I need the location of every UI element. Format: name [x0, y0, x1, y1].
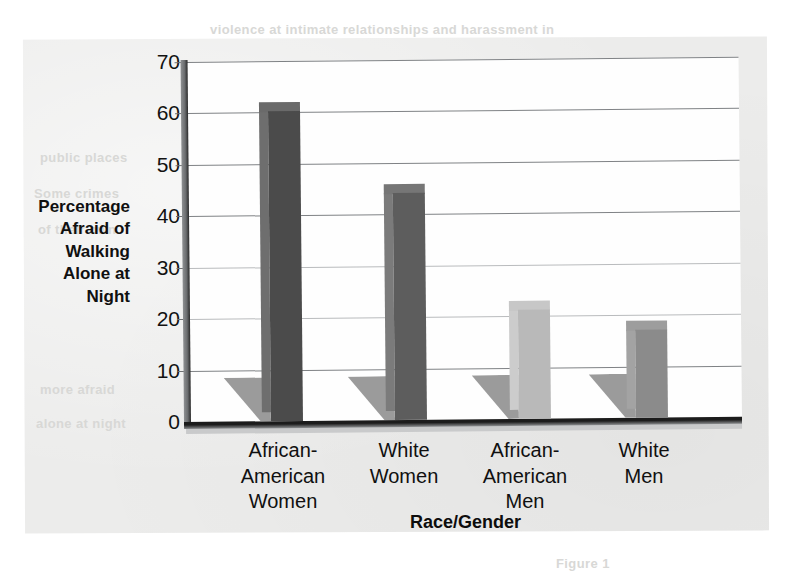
y-axis-tick-labels: 010203040506070	[128, 0, 180, 440]
bar	[509, 301, 551, 419]
y-axis-line	[181, 60, 191, 424]
y-axis-title: PercentageAfraid ofWalkingAlone atNight	[14, 196, 130, 308]
x-axis-category-line: Women	[193, 489, 373, 515]
bar-front-face	[635, 329, 668, 418]
gridlines	[187, 57, 739, 62]
y-axis-tick-label: 10	[157, 360, 180, 381]
gridline	[187, 57, 739, 63]
x-axis-category-line: Men	[435, 489, 615, 515]
scanned-chart-page: violence at intimate relationships and h…	[0, 0, 786, 581]
y-axis-tick-label: 0	[168, 411, 180, 432]
y-axis-title-line: Afraid of	[14, 218, 130, 240]
bar	[259, 102, 303, 421]
y-axis-title-line: Walking	[14, 241, 130, 263]
x-axis-category-line: White	[554, 438, 734, 464]
bar-front-face	[393, 192, 427, 420]
y-axis-title-line: Alone at	[14, 263, 130, 285]
bar	[626, 320, 668, 418]
bar-front-face	[268, 111, 303, 421]
bar-front-face	[518, 310, 551, 419]
x-axis-category-label: WhiteMen	[554, 438, 734, 489]
bar	[384, 183, 427, 420]
x-axis-title: Race/Gender	[410, 512, 521, 533]
bar-chart: PercentageAfraid ofWalkingAlone atNight …	[0, 0, 786, 581]
y-axis-title-line: Percentage	[14, 196, 130, 218]
x-axis-category-line: Men	[554, 464, 734, 490]
y-axis-title-line: Night	[14, 286, 130, 308]
plot-area	[187, 57, 742, 422]
